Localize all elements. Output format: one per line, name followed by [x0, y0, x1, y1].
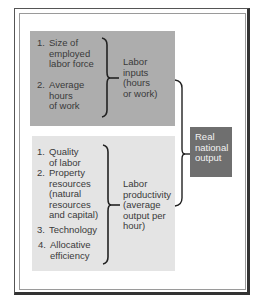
connector-lines — [0, 0, 257, 304]
upper-brace-icon — [102, 38, 110, 117]
lower-brace-icon — [103, 145, 111, 264]
output-bracket-icon — [175, 80, 185, 206]
